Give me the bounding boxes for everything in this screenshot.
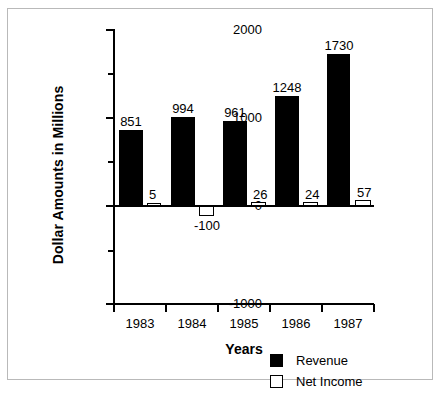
x-tick-label-1984: 1984	[166, 317, 218, 330]
bar-label-revenue-1983: 851	[113, 115, 149, 128]
bar-label-revenue-1986: 1248	[266, 81, 308, 94]
plot-area: 2000 1000 0 -1000 1983 1984 1985 1986 19…	[114, 29, 374, 304]
bar-netincome-1985	[251, 202, 266, 206]
y-tick-2000	[106, 29, 114, 31]
bar-label-netincome-1986: 24	[305, 188, 319, 201]
bar-revenue-1984	[171, 117, 195, 206]
chart-frame: 2000 1000 0 -1000 1983 1984 1985 1986 19…	[7, 8, 433, 380]
bar-revenue-1986	[275, 96, 299, 206]
y-tick-0	[106, 205, 114, 207]
bar-label-netincome-1983: 5	[149, 188, 156, 201]
bar-label-netincome-1985: 26	[253, 188, 267, 201]
bar-netincome-1987	[355, 200, 371, 206]
y-tick-500	[108, 161, 114, 163]
legend-label-net-income: Net Income	[296, 375, 362, 388]
x-tick-2	[217, 304, 219, 312]
x-tick-label-1986: 1986	[270, 317, 322, 330]
x-tick-5	[373, 304, 375, 312]
bar-label-revenue-1985: 961	[217, 106, 253, 119]
legend-label-revenue: Revenue	[296, 354, 348, 367]
y-tick-label-2000: 2000	[233, 23, 262, 36]
bar-label-netincome-1987: 57	[357, 186, 371, 199]
bar-netincome-1983	[147, 203, 161, 206]
legend-item-revenue: Revenue	[270, 350, 362, 371]
bar-revenue-1985	[223, 121, 247, 206]
bar-revenue-1987	[327, 54, 350, 206]
y-axis-title: Dollar Amounts in Millions	[50, 75, 66, 275]
y-tick-minus500	[108, 250, 114, 252]
bar-label-revenue-1987: 1730	[318, 39, 360, 52]
x-tick-label-1983: 1983	[114, 317, 166, 330]
x-tick-4	[321, 304, 323, 312]
y-tick-1500	[108, 73, 114, 75]
x-tick-label-1985: 1985	[218, 317, 270, 330]
y-tick-label-minus1000: -1000	[229, 297, 262, 310]
bar-revenue-1983	[119, 130, 143, 206]
legend-item-net-income: Net Income	[270, 371, 362, 392]
bar-label-netincome-1984: -100	[188, 219, 226, 232]
x-tick-label-1987: 1987	[322, 317, 374, 330]
y-axis-line	[113, 29, 115, 305]
x-tick-0	[113, 304, 115, 312]
bar-netincome-1986	[303, 202, 318, 206]
legend-swatch-net-income-icon	[270, 375, 283, 388]
bar-label-revenue-1984: 994	[165, 102, 201, 115]
bar-netincome-1984	[199, 206, 214, 216]
chart-legend: Revenue Net Income	[270, 350, 362, 392]
legend-swatch-revenue-icon	[270, 354, 283, 367]
chart-figure: 2000 1000 0 -1000 1983 1984 1985 1986 19…	[0, 0, 444, 409]
x-tick-1	[165, 304, 167, 312]
x-tick-3	[269, 304, 271, 312]
